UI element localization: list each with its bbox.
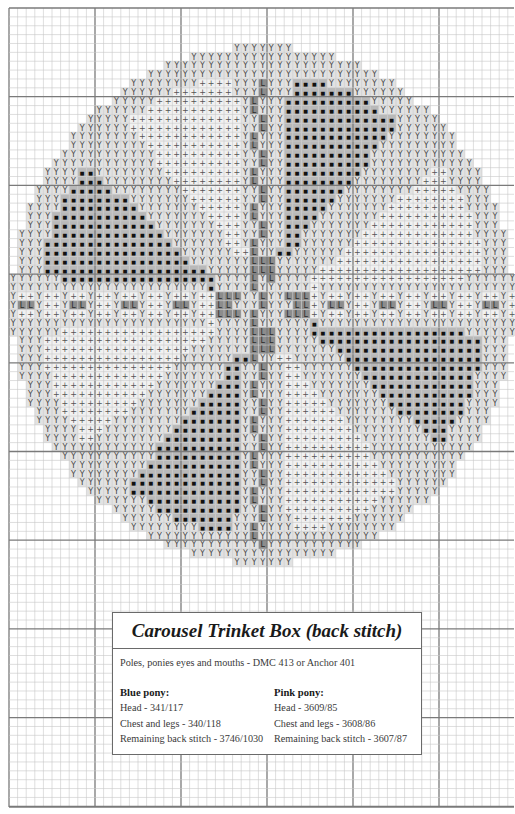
svg-text:Y: Y <box>345 230 351 239</box>
svg-text:Y: Y <box>87 124 93 133</box>
svg-text:■: ■ <box>303 179 308 185</box>
svg-text:Y: Y <box>233 53 239 62</box>
svg-text:■: ■ <box>226 454 231 460</box>
svg-text:L: L <box>269 274 274 283</box>
svg-text:■: ■ <box>140 268 145 274</box>
svg-text:Y: Y <box>199 372 205 381</box>
svg-text:+: + <box>457 257 464 266</box>
svg-text:Y: Y <box>242 70 248 79</box>
svg-text:Y: Y <box>173 540 179 549</box>
svg-text:Y: Y <box>268 203 274 212</box>
svg-text:■: ■ <box>88 268 93 274</box>
svg-text:■: ■ <box>321 179 326 185</box>
svg-text:Y: Y <box>388 132 394 141</box>
svg-text:Y: Y <box>208 70 214 79</box>
svg-text:Y: Y <box>182 532 188 541</box>
svg-text:+: + <box>242 248 249 257</box>
svg-text:■: ■ <box>149 276 154 282</box>
svg-text:Y: Y <box>113 434 119 443</box>
svg-text:Y: Y <box>199 381 205 390</box>
svg-text:■: ■ <box>192 409 197 415</box>
svg-text:+: + <box>165 106 172 115</box>
svg-text:+: + <box>302 425 309 434</box>
svg-text:+: + <box>363 257 370 266</box>
svg-text:Y: Y <box>371 168 377 177</box>
svg-text:■: ■ <box>200 525 205 531</box>
svg-text:■: ■ <box>364 374 369 380</box>
svg-text:Y: Y <box>268 70 274 79</box>
svg-text:+: + <box>182 141 189 150</box>
svg-text:■: ■ <box>140 259 145 265</box>
svg-text:Y: Y <box>276 168 282 177</box>
svg-text:■: ■ <box>355 108 360 114</box>
svg-text:Y: Y <box>276 195 282 204</box>
svg-text:Y: Y <box>130 186 136 195</box>
svg-text:+: + <box>320 416 327 425</box>
svg-text:Y: Y <box>199 319 205 328</box>
svg-text:Y: Y <box>242 168 248 177</box>
svg-text:Y: Y <box>225 283 231 292</box>
svg-text:+: + <box>328 407 335 416</box>
svg-text:Y: Y <box>500 266 506 275</box>
svg-text:+: + <box>208 177 215 186</box>
svg-text:Y: Y <box>182 221 188 230</box>
svg-text:Y: Y <box>491 328 497 337</box>
svg-text:+: + <box>27 292 34 301</box>
svg-text:+: + <box>285 434 292 443</box>
svg-text:Y: Y <box>337 363 343 372</box>
svg-text:■: ■ <box>295 108 300 114</box>
svg-text:■: ■ <box>114 268 119 274</box>
svg-text:+: + <box>156 115 163 124</box>
svg-text:Y: Y <box>233 266 239 275</box>
svg-text:Y: Y <box>483 399 489 408</box>
svg-text:Y: Y <box>182 79 188 88</box>
svg-text:Y: Y <box>423 283 429 292</box>
svg-text:Y: Y <box>208 61 214 70</box>
svg-text:■: ■ <box>140 250 145 256</box>
svg-text:+: + <box>431 310 438 319</box>
svg-text:Y: Y <box>173 186 179 195</box>
svg-text:■: ■ <box>54 232 59 238</box>
svg-text:Y: Y <box>122 505 128 514</box>
svg-text:+: + <box>345 487 352 496</box>
svg-text:Y: Y <box>319 230 325 239</box>
svg-text:+: + <box>130 381 137 390</box>
svg-text:■: ■ <box>312 170 317 176</box>
svg-text:Y: Y <box>165 319 171 328</box>
svg-text:■: ■ <box>123 241 128 247</box>
svg-text:■: ■ <box>407 365 412 371</box>
svg-text:Y: Y <box>483 239 489 248</box>
svg-text:Y: Y <box>113 177 119 186</box>
svg-text:+: + <box>380 266 387 275</box>
svg-text:Y: Y <box>371 177 377 186</box>
svg-text:Y: Y <box>251 399 257 408</box>
svg-text:Y: Y <box>405 124 411 133</box>
svg-text:■: ■ <box>217 436 222 442</box>
svg-text:Y: Y <box>268 381 274 390</box>
svg-text:+: + <box>234 150 241 159</box>
svg-text:■: ■ <box>71 214 76 220</box>
svg-text:■: ■ <box>458 356 463 362</box>
svg-text:+: + <box>208 106 215 115</box>
svg-text:Y: Y <box>225 345 231 354</box>
svg-text:Y: Y <box>251 301 257 310</box>
svg-text:+: + <box>440 239 447 248</box>
svg-text:Y: Y <box>225 336 231 345</box>
svg-text:■: ■ <box>131 223 136 229</box>
svg-text:Y: Y <box>259 354 265 363</box>
svg-text:■: ■ <box>54 223 59 229</box>
svg-text:■: ■ <box>415 338 420 344</box>
svg-text:Y: Y <box>457 283 463 292</box>
svg-text:■: ■ <box>467 374 472 380</box>
svg-text:Y: Y <box>130 141 136 150</box>
svg-text:Y: Y <box>448 425 454 434</box>
svg-text:■: ■ <box>226 401 231 407</box>
svg-text:Y: Y <box>251 407 257 416</box>
svg-text:Y: Y <box>259 532 265 541</box>
svg-text:+: + <box>191 115 198 124</box>
svg-text:Y: Y <box>259 416 265 425</box>
svg-text:■: ■ <box>295 143 300 149</box>
svg-text:Y: Y <box>380 399 386 408</box>
svg-text:Y: Y <box>285 549 291 558</box>
svg-text:Y: Y <box>242 141 248 150</box>
